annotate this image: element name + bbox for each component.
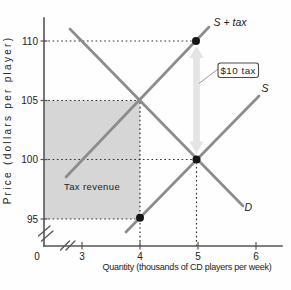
x-tick-5: 5 <box>195 251 201 262</box>
x-tick-4: 4 <box>137 251 143 262</box>
tax-revenue-label: Tax revenue <box>64 181 120 192</box>
y-tick-105: 105 <box>21 95 38 106</box>
tax-arrow <box>189 46 203 154</box>
y-axis-title: Price (dollars per player) <box>2 36 13 205</box>
demand-label: D <box>245 201 253 213</box>
y-axis-break <box>39 226 54 241</box>
supply-label: S <box>262 82 269 94</box>
x-tick-6: 6 <box>253 251 259 262</box>
y-tick-95: 95 <box>27 214 39 225</box>
point-q4-p95-dot <box>136 214 144 222</box>
x-axis-title: Quantity (thousands of CD players per we… <box>103 262 272 272</box>
callout-connector-line <box>199 69 218 84</box>
tax-incidence-figure: 110 105 100 95 0 3 4 5 6 S + tax S D Tax… <box>0 0 291 290</box>
y-tick-100: 100 <box>21 154 38 165</box>
x-tick-0: 0 <box>34 251 40 262</box>
no-tax-equilibrium-dot <box>193 156 201 164</box>
tax-callout-text: $10 tax <box>220 65 256 76</box>
point-q5-p110-dot <box>192 37 200 45</box>
x-tick-3: 3 <box>79 251 85 262</box>
chart-canvas: 110 105 100 95 0 3 4 5 6 S + tax S D Tax… <box>0 0 291 290</box>
y-tick-110: 110 <box>22 36 38 47</box>
supply-curve <box>126 96 259 232</box>
supply-plus-tax-label: S + tax <box>214 16 248 28</box>
